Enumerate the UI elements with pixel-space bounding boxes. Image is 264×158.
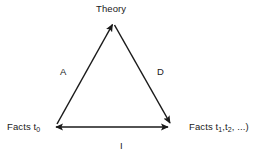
edge-label-d: D	[157, 66, 164, 77]
node-label-facts-tn: Facts t1,t2, ...)	[189, 121, 249, 133]
edge-label-a: A	[60, 66, 66, 77]
node-label-facts-tn-main: Facts t	[189, 121, 218, 132]
node-label-facts-tn-subscript-2: 2	[228, 126, 232, 133]
node-label-facts-tn-tail: , ...)	[232, 121, 249, 132]
node-label-facts-tn-separator: ,t	[222, 121, 227, 132]
node-label-facts-t0-main: Facts t	[7, 121, 36, 132]
node-label-facts-tn-subscript-1: 1	[218, 126, 222, 133]
node-label-facts-t0: Facts t0	[7, 121, 40, 133]
triangle-graphic	[0, 0, 264, 158]
node-label-facts-t0-subscript: 0	[36, 126, 40, 133]
node-label-theory: Theory	[96, 3, 126, 14]
edge-label-i: I	[120, 140, 123, 151]
diagram-canvas: Theory Facts t0 Facts t1,t2, ...) A D I	[0, 0, 264, 158]
